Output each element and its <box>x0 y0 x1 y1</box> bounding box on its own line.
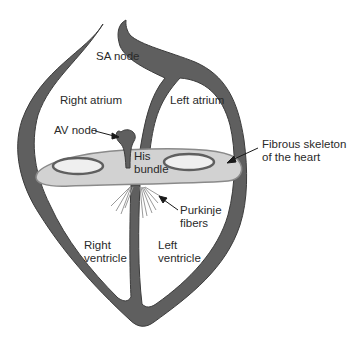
label-fibrous-skeleton-line1: Fibrous skeleton <box>262 138 346 151</box>
label-left-ventricle-line1: Left <box>158 239 177 252</box>
label-left-ventricle-line2: ventricle <box>158 252 201 265</box>
label-purkinje-line1: Purkinje <box>180 204 222 217</box>
tricuspid-valve-opening <box>53 158 103 174</box>
label-right-atrium: Right atrium <box>60 94 122 107</box>
heart-illustration <box>0 0 353 346</box>
label-purkinje-line2: fibers <box>180 217 208 230</box>
mitral-valve-opening <box>164 154 214 170</box>
label-right-ventricle-line2: ventricle <box>84 252 127 265</box>
label-right-ventricle-line1: Right <box>84 239 111 252</box>
heart-conduction-diagram: SA node Right atrium Left atrium AV node… <box>0 0 353 346</box>
label-sa-node: SA node <box>96 50 139 63</box>
label-left-atrium: Left atrium <box>170 94 224 107</box>
label-av-node: AV node <box>54 124 97 137</box>
label-fibrous-skeleton-line2: of the heart <box>262 151 320 164</box>
label-his-bundle-line1: His <box>134 150 151 163</box>
label-his-bundle-line2: bundle <box>134 163 169 176</box>
